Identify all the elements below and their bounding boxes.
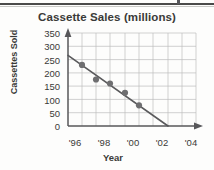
plot-area <box>0 0 214 170</box>
right-arrow-icon <box>194 123 203 130</box>
data-point <box>79 62 85 68</box>
up-arrow-icon <box>65 28 72 37</box>
data-point <box>93 76 99 82</box>
figure-container: Cassette Sales (millions) Cassettes Sold… <box>0 0 214 170</box>
data-point <box>107 80 113 86</box>
data-point <box>136 102 142 108</box>
data-point <box>122 90 128 96</box>
